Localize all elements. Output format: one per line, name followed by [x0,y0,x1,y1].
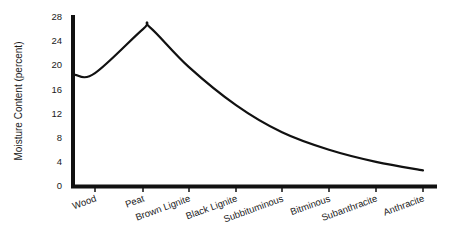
y-tick-label: 0 [57,180,62,191]
moisture-content-chart: Moisture Content (percent) 28 24 20 16 1… [0,0,454,243]
y-tick-label: 8 [57,132,62,143]
x-tick-labels: Wood Peat Brown Lignite Black Lignite Su… [71,192,426,224]
y-tick-label: 28 [51,11,62,22]
x-tick-label-peat: Peat [124,192,146,209]
x-ticks [95,188,423,192]
y-tick-label: 16 [51,84,62,95]
y-tick-label: 20 [51,59,62,70]
x-tick-label-anthracite: Anthracite [382,193,426,218]
y-tick-label: 24 [51,35,62,46]
y-tick-labels: 28 24 20 16 12 8 4 0 [51,11,62,191]
y-tick-label: 12 [51,108,62,119]
y-axis-title: Moisture Content (percent) [13,42,24,161]
y-tick-label: 4 [57,156,62,167]
x-tick-label-wood: Wood [71,193,98,212]
moisture-curve [75,22,423,170]
